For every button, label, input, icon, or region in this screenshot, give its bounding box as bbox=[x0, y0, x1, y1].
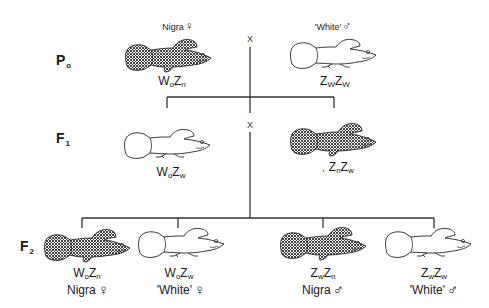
p0-female-genotype: WoZn bbox=[158, 74, 186, 89]
male-symbol-icon: ♂ bbox=[447, 281, 458, 298]
generation-label-f1: F1 bbox=[56, 130, 70, 148]
f2-white-male-genotype: ZwZw bbox=[421, 266, 447, 281]
fish-white-female-f2-icon bbox=[138, 223, 226, 263]
f2-white-female-phenotype: 'White'♀ bbox=[157, 281, 206, 298]
f2-white-female-genotype: WoZw bbox=[165, 266, 194, 281]
fish-nigra-male-f2-icon bbox=[280, 224, 368, 264]
cross-symbol-p0: X bbox=[247, 34, 253, 44]
fish-nigra-female-f2-icon bbox=[44, 226, 132, 266]
female-symbol-icon: ♀ bbox=[194, 281, 205, 298]
f2-nigra-female-phenotype: Nigra♀ bbox=[67, 281, 109, 298]
f2-white-male-phenotype: 'White'♂ bbox=[410, 281, 459, 298]
f2-nigra-male-phenotype: Nigra♂ bbox=[302, 281, 344, 298]
cross-symbol-f1: X bbox=[247, 120, 253, 130]
male-symbol-icon: ♂ bbox=[333, 281, 344, 298]
f2-nigra-female-genotype: WoZn bbox=[73, 266, 101, 281]
female-symbol-icon: ♀ bbox=[185, 19, 194, 33]
generation-label-p0: Po bbox=[56, 52, 71, 70]
fish-white-f1-icon bbox=[124, 124, 212, 164]
p0-male-phenotype: 'White'♂ bbox=[315, 19, 351, 33]
male-symbol-icon: ♂ bbox=[342, 19, 351, 33]
fish-white-male-icon bbox=[290, 34, 378, 74]
fish-nigra-f1-icon bbox=[290, 120, 378, 160]
fish-nigra-female-icon bbox=[125, 36, 213, 76]
f1-white-genotype: WoZw bbox=[157, 165, 186, 180]
f2-nigra-male-genotype: ZwZn bbox=[311, 266, 336, 281]
generation-label-f2: F2 bbox=[20, 238, 34, 256]
f1-nigra-genotype: ,ZnZw bbox=[322, 160, 353, 175]
p0-female-phenotype: Nigra♀ bbox=[162, 19, 194, 33]
female-symbol-icon: ♀ bbox=[98, 281, 109, 298]
p0-male-genotype: ZWZW bbox=[320, 74, 350, 89]
fish-white-male-f2-icon bbox=[385, 223, 473, 263]
